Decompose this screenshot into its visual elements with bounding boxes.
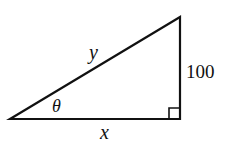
hypotenuse-label: y <box>89 42 98 62</box>
adjacent-side-label: x <box>100 122 109 142</box>
angle-label: θ <box>52 97 61 115</box>
triangle <box>10 17 180 119</box>
opposite-side-label: 100 <box>186 62 215 81</box>
right-angle-marker <box>169 108 180 119</box>
